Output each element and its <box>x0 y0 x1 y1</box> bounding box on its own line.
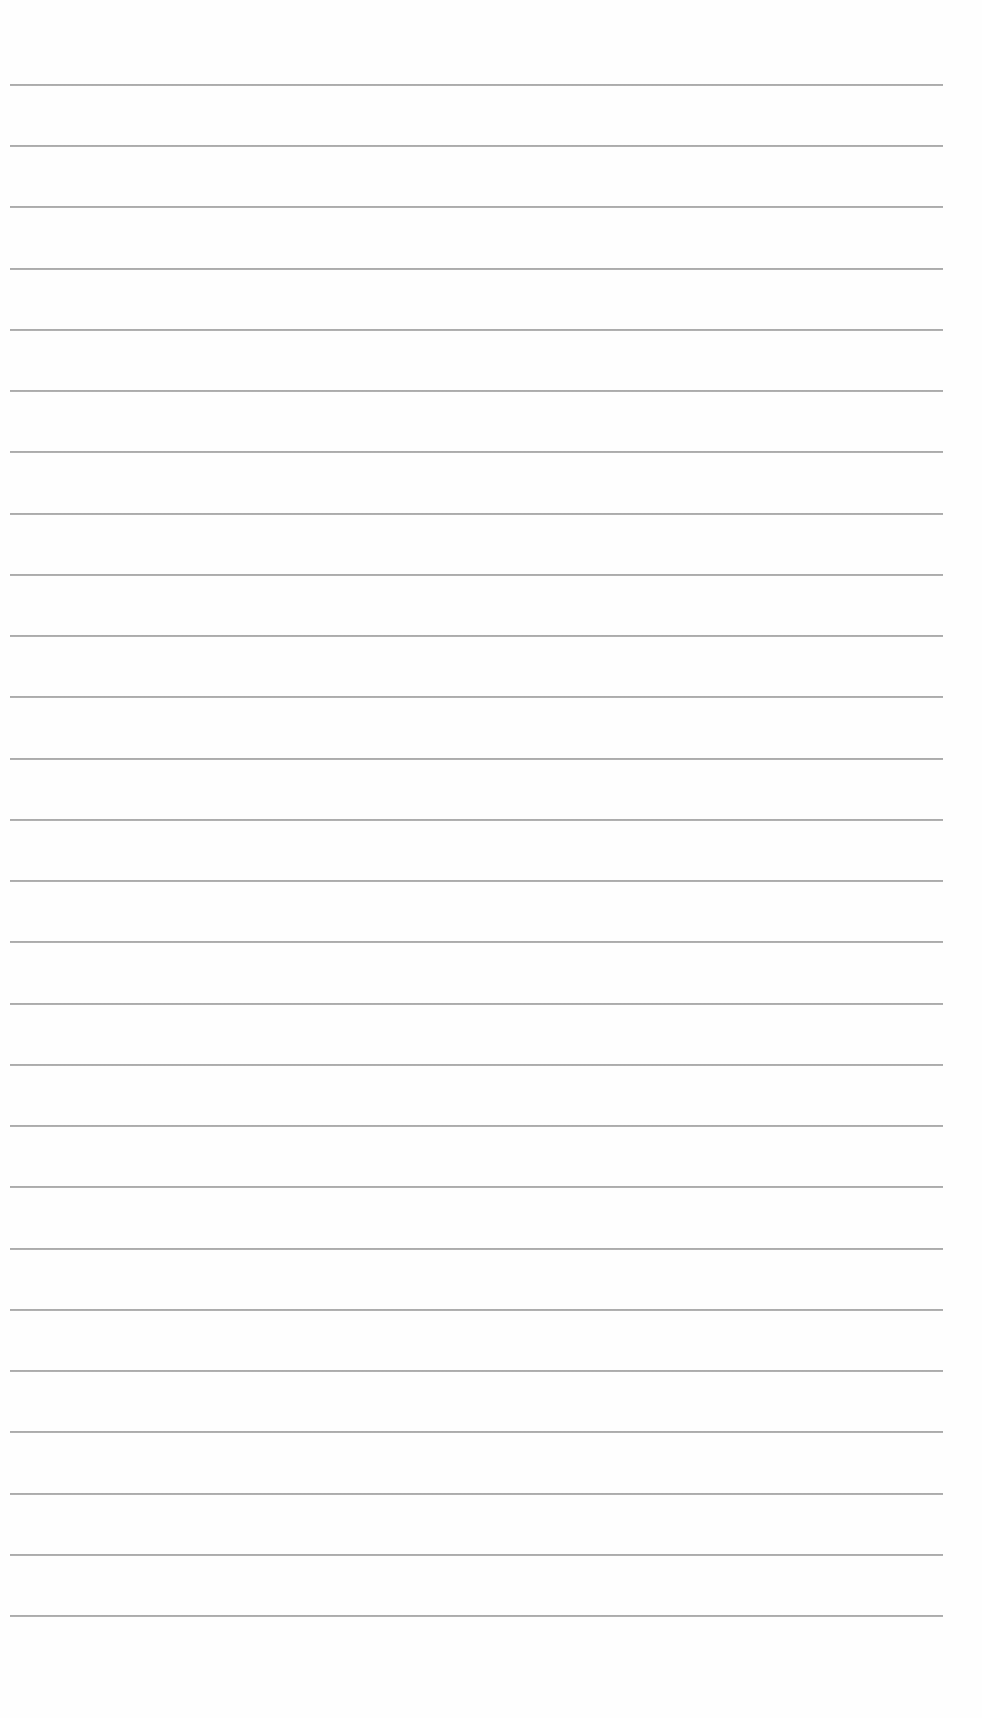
ruled-line <box>10 329 943 331</box>
ruled-line <box>10 84 943 86</box>
ruled-line <box>10 206 943 208</box>
ruled-line <box>10 696 943 698</box>
ruled-line <box>10 1186 943 1188</box>
ruled-line <box>10 268 943 270</box>
ruled-line <box>10 1309 943 1311</box>
ruled-line <box>10 758 943 760</box>
ruled-line <box>10 145 943 147</box>
ruled-line <box>10 1554 943 1556</box>
ruled-line <box>10 1064 943 1066</box>
ruled-line <box>10 451 943 453</box>
ruled-line <box>10 1615 943 1617</box>
ruled-line <box>10 513 943 515</box>
lined-paper-page <box>0 0 982 1718</box>
ruled-line <box>10 819 943 821</box>
ruled-line <box>10 390 943 392</box>
ruled-line <box>10 1003 943 1005</box>
ruled-line <box>10 635 943 637</box>
ruled-line <box>10 574 943 576</box>
ruled-line <box>10 1370 943 1372</box>
ruled-line <box>10 941 943 943</box>
ruled-line <box>10 1248 943 1250</box>
ruled-line <box>10 1493 943 1495</box>
ruled-line <box>10 880 943 882</box>
ruled-line <box>10 1431 943 1433</box>
ruled-line <box>10 1125 943 1127</box>
